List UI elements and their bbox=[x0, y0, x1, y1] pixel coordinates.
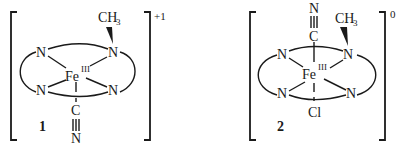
ring-arc-left bbox=[20, 52, 36, 92]
oxidation-state: III bbox=[318, 62, 327, 72]
atom-n-cyano: N bbox=[71, 131, 81, 146]
atom-n-top-left: N bbox=[36, 45, 46, 60]
bond-fe-n4 bbox=[324, 79, 346, 90]
bond-fe-n2 bbox=[330, 60, 343, 68]
atom-n-bottom-left: N bbox=[277, 86, 287, 101]
chemical-diagram: +1 N N N N Fe III CH 3 C N 1 bbox=[0, 0, 398, 151]
atom-n-top-right: N bbox=[108, 45, 118, 60]
charge-label: 0 bbox=[390, 8, 396, 20]
bond-fe-n1 bbox=[289, 58, 303, 67]
atom-n-top-left: N bbox=[277, 47, 287, 62]
left-bracket bbox=[11, 12, 17, 140]
oxidation-state: III bbox=[81, 64, 90, 74]
ring-arc-bottom bbox=[289, 95, 346, 100]
methyl-ch: CH bbox=[98, 10, 117, 25]
wedge-bond bbox=[106, 27, 113, 44]
compound-label: 2 bbox=[277, 119, 284, 134]
bond-fe-n2 bbox=[90, 57, 107, 66]
ring-arc-top bbox=[289, 47, 343, 52]
left-bracket bbox=[250, 12, 256, 140]
atom-n-bottom-right: N bbox=[108, 83, 118, 98]
complex-1: +1 N N N N Fe III CH 3 C N 1 bbox=[11, 10, 166, 146]
ring-arc-left bbox=[258, 55, 277, 95]
atom-fe: Fe bbox=[65, 69, 79, 84]
ring-arc-bottom bbox=[48, 92, 108, 97]
atom-fe: Fe bbox=[302, 67, 316, 82]
atom-n-bottom-right: N bbox=[346, 86, 356, 101]
atom-c-cyano: C bbox=[309, 29, 318, 44]
bond-fe-n3 bbox=[48, 80, 66, 87]
charge-label: +1 bbox=[154, 10, 166, 22]
bond-fe-n4 bbox=[86, 78, 107, 87]
complex-2: 0 N C CH 3 N N N N Fe III Cl 2 bbox=[250, 1, 396, 140]
right-bracket bbox=[144, 12, 150, 140]
right-bracket bbox=[379, 12, 385, 140]
ring-arc-right bbox=[357, 55, 376, 95]
compound-label: 1 bbox=[39, 119, 46, 134]
methyl-subscript: 3 bbox=[116, 17, 121, 27]
bond-fe-n3 bbox=[289, 82, 305, 91]
atom-c-cyano: C bbox=[71, 103, 80, 118]
ring-arc-top bbox=[48, 44, 108, 49]
ring-arc-right bbox=[120, 52, 135, 92]
atom-n-cyano: N bbox=[309, 1, 319, 16]
atom-n-top-right: N bbox=[343, 47, 353, 62]
wedge-bond bbox=[340, 27, 348, 46]
atom-n-bottom-left: N bbox=[36, 83, 46, 98]
methyl-subscript: 3 bbox=[353, 18, 358, 28]
methyl-ch: CH bbox=[335, 11, 354, 26]
bond-fe-n1 bbox=[48, 56, 66, 68]
atom-cl: Cl bbox=[308, 105, 321, 120]
